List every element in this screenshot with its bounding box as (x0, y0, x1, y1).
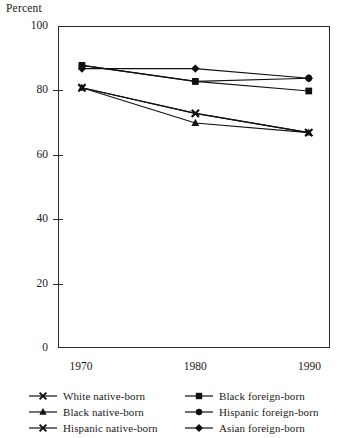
y-tick-label: 100 (8, 19, 48, 31)
legend-label: Black native-born (63, 406, 144, 418)
y-axis-title: Percent (6, 2, 42, 14)
chart-legend: White native-bornBlack foreign-bornBlack… (28, 388, 334, 436)
legend-item: Hispanic foreign-born (184, 404, 334, 420)
legend-label: Hispanic native-born (63, 422, 158, 434)
y-tick-label: 40 (8, 212, 48, 224)
legend-item: Black foreign-born (184, 388, 334, 404)
y-tick-label: 20 (8, 277, 48, 289)
legend-label: White native-born (63, 390, 145, 402)
data-point (305, 88, 312, 95)
legend-item: Black native-born (28, 404, 178, 420)
plot-area (58, 26, 330, 348)
chart-figure: Percent 020406080100 197019801990 White … (0, 0, 349, 438)
legend-item: White native-born (28, 388, 178, 404)
legend-marker-x-icon (28, 422, 58, 434)
data-point (305, 74, 313, 82)
y-tick-label: 0 (8, 341, 48, 353)
y-tick-label: 60 (8, 148, 48, 160)
legend-item: Asian foreign-born (184, 420, 334, 436)
legend-marker-square-icon (184, 390, 214, 402)
legend-marker-circle-icon (184, 406, 214, 418)
legend-marker-x-icon (28, 390, 58, 402)
x-tick-label: 1970 (51, 360, 111, 372)
y-tick-label: 80 (8, 83, 48, 95)
data-series (78, 84, 312, 136)
data-series (78, 84, 312, 136)
legend-item: Hispanic native-born (28, 420, 178, 436)
legend-label: Black foreign-born (219, 390, 305, 402)
x-tick-label: 1990 (280, 360, 340, 372)
series-plot (59, 27, 329, 347)
legend-marker-triangle-icon (28, 406, 58, 418)
x-tick-label: 1980 (165, 360, 225, 372)
legend-label: Hispanic foreign-born (219, 406, 319, 418)
data-point (191, 64, 199, 72)
legend-label: Asian foreign-born (219, 422, 305, 434)
data-point (192, 78, 199, 85)
legend-marker-diamond-icon (184, 422, 214, 434)
